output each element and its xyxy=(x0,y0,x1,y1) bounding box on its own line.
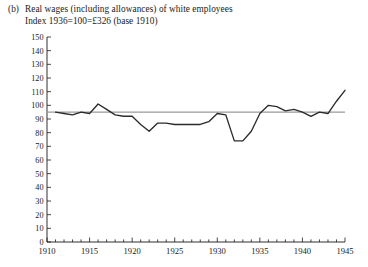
x-tick-label: 1930 xyxy=(209,246,226,256)
x-tick-label: 1910 xyxy=(38,246,55,256)
x-tick-label: 1940 xyxy=(294,246,311,256)
y-tick-label: 130 xyxy=(31,60,43,69)
line-chart: 0102030405060708090100110120130140150 19… xyxy=(0,0,368,267)
y-tick-label: 40 xyxy=(35,183,43,192)
y-tick-label: 80 xyxy=(35,129,43,138)
y-tick-label: 100 xyxy=(31,101,43,110)
y-tick-label: 10 xyxy=(35,224,43,233)
y-tick-label: 150 xyxy=(31,33,43,42)
y-tick-label: 110 xyxy=(32,88,44,97)
y-tick-label: 60 xyxy=(35,156,43,165)
figure-panel: (b) Real wages (including allowances) of… xyxy=(0,0,368,267)
y-axis-ticks: 0102030405060708090100110120130140150 xyxy=(31,33,51,247)
y-tick-label: 50 xyxy=(35,170,43,179)
x-tick-label: 1945 xyxy=(336,246,353,256)
x-tick-label: 1920 xyxy=(124,246,141,256)
x-tick-label: 1915 xyxy=(81,246,98,256)
y-tick-label: 70 xyxy=(35,142,43,151)
x-tick-label: 1925 xyxy=(166,246,183,256)
y-tick-label: 90 xyxy=(35,115,43,124)
x-axis-ticks: 19101915192019251930193519401945 xyxy=(38,238,353,256)
y-tick-label: 140 xyxy=(31,47,43,56)
x-tick-label: 1935 xyxy=(251,246,268,256)
y-tick-label: 20 xyxy=(35,211,43,220)
y-tick-label: 120 xyxy=(31,74,43,83)
data-series-line xyxy=(56,90,345,141)
y-tick-label: 30 xyxy=(35,197,43,206)
